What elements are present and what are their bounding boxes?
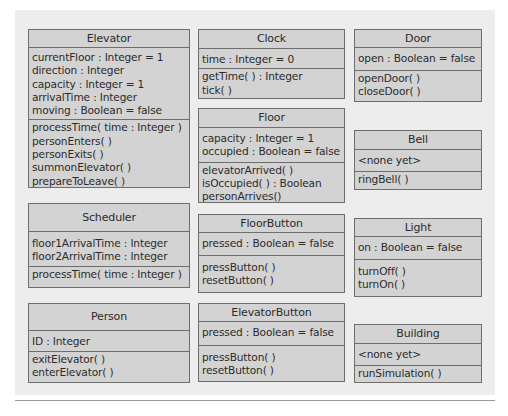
operations-compartment: exitElevator( ) enterElevator( ) (29, 352, 189, 382)
attributes-compartment: pressed : Boolean = false (199, 322, 344, 346)
attribute: occupied : Boolean = false (202, 145, 341, 158)
operation: personExits( ) (32, 148, 186, 161)
attribute: currentFloor : Integer = 1 (32, 51, 186, 64)
operations-compartment: pressButton( ) resetButton( ) (199, 346, 344, 381)
attribute: <none yet> (358, 348, 478, 361)
attributes-compartment: capacity : Integer = 1 occupied : Boolea… (199, 128, 344, 163)
operation: turnOn( ) (358, 278, 478, 291)
operation: processTime( time : Integer ) (32, 121, 186, 134)
class-light: Light on : Boolean = false turnOff( ) tu… (354, 218, 482, 297)
attributes-compartment: on : Boolean = false (355, 237, 481, 260)
operations-compartment: getTime( ) : Integer tick( ) (199, 69, 344, 99)
attribute: open : Boolean = false (358, 52, 478, 65)
operations-compartment: turnOff( ) turnOn( ) (355, 260, 481, 296)
operation: personArrives() (202, 190, 341, 203)
class-elevator: Elevator currentFloor : Integer = 1 dire… (28, 29, 190, 188)
operation: closeDoor( ) (358, 85, 478, 98)
operation: resetButton( ) (202, 364, 341, 377)
class-name: Person (29, 304, 189, 331)
attribute: direction : Integer (32, 64, 186, 77)
attribute: floor1ArrivalTime : Integer (32, 237, 186, 250)
attribute: pressed : Boolean = false (202, 326, 341, 339)
attribute: floor2ArrivalTime : Integer (32, 250, 186, 263)
operations-compartment: runSimulation( ) (355, 366, 481, 382)
class-scheduler: Scheduler floor1ArrivalTime : Integer fl… (28, 203, 190, 288)
attributes-compartment: time : Integer = 0 (199, 49, 344, 69)
attributes-compartment: pressed : Boolean = false (199, 233, 344, 256)
attributes-compartment: ID : Integer (29, 331, 189, 352)
class-name: FloorButton (199, 215, 344, 233)
attribute: arrivalTime : Integer (32, 91, 186, 104)
class-name: Building (355, 325, 481, 344)
attributes-compartment: floor1ArrivalTime : Integer floor2Arriva… (29, 232, 189, 267)
operation: personEnters( ) (32, 135, 186, 148)
bottom-divider (15, 400, 495, 401)
class-name: Bell (355, 131, 481, 150)
operation: pressButton( ) (202, 351, 341, 364)
operation: processTime( time : Integer ) (32, 268, 186, 281)
class-person: Person ID : Integer exitElevator( ) ente… (28, 303, 190, 383)
operation: summonElevator( ) (32, 161, 186, 174)
attributes-compartment: open : Boolean = false (355, 48, 481, 71)
attribute: time : Integer = 0 (202, 53, 341, 66)
operation: tick( ) (202, 84, 341, 97)
class-clock: Clock time : Integer = 0 getTime( ) : In… (198, 29, 345, 99)
attribute: pressed : Boolean = false (202, 237, 341, 250)
operations-compartment: openDoor( ) closeDoor( ) (355, 71, 481, 101)
operation: enterElevator( ) (32, 366, 186, 379)
attribute: moving : Boolean = false (32, 104, 186, 117)
operation: openDoor( ) (358, 72, 478, 85)
class-floorbutton: FloorButton pressed : Boolean = false pr… (198, 214, 345, 293)
class-name: Scheduler (29, 204, 189, 232)
operations-compartment: elevatorArrived( ) isOccupied( ) : Boole… (199, 163, 344, 206)
class-name: Clock (199, 30, 344, 49)
attribute: ID : Integer (32, 335, 186, 348)
operation: turnOff( ) (358, 265, 478, 278)
class-building: Building <none yet> runSimulation( ) (354, 324, 482, 383)
operation: resetButton( ) (202, 274, 341, 287)
operation: prepareToLeave( ) (32, 175, 186, 188)
class-name: Door (355, 30, 481, 48)
class-name: Elevator (29, 30, 189, 48)
operation: elevatorArrived( ) (202, 164, 341, 177)
operations-compartment: pressButton( ) resetButton( ) (199, 256, 344, 292)
attributes-compartment: <none yet> (355, 150, 481, 172)
attributes-compartment: currentFloor : Integer = 1 direction : I… (29, 48, 189, 120)
class-name: ElevatorButton (199, 304, 344, 322)
operation: isOccupied( ) : Boolean (202, 177, 341, 190)
attribute: capacity : Integer = 1 (32, 78, 186, 91)
operations-compartment: processTime( time : Integer ) (29, 267, 189, 287)
class-elevatorbutton: ElevatorButton pressed : Boolean = false… (198, 303, 345, 382)
operation: ringBell( ) (358, 173, 478, 186)
class-bell: Bell <none yet> ringBell( ) (354, 130, 482, 190)
class-door: Door open : Boolean = false openDoor( ) … (354, 29, 482, 102)
attributes-compartment: <none yet> (355, 344, 481, 366)
attribute: <none yet> (358, 154, 478, 167)
operation: getTime( ) : Integer (202, 70, 341, 83)
class-name: Light (355, 219, 481, 237)
attribute: on : Boolean = false (358, 241, 478, 254)
class-floor: Floor capacity : Integer = 1 occupied : … (198, 108, 345, 203)
attribute: capacity : Integer = 1 (202, 132, 341, 145)
operations-compartment: ringBell( ) (355, 172, 481, 189)
operation: pressButton( ) (202, 261, 341, 274)
operation: runSimulation( ) (358, 367, 478, 380)
class-name: Floor (199, 109, 344, 128)
operations-compartment: processTime( time : Integer ) personEnte… (29, 120, 189, 189)
operation: exitElevator( ) (32, 353, 186, 366)
